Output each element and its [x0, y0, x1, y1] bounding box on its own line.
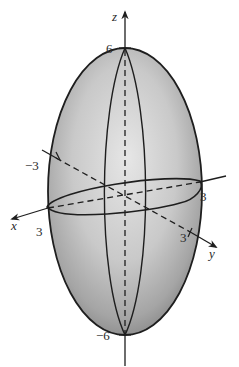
y-tick-positive-label: 3 — [180, 230, 187, 245]
x-tick-positive-label: 3 — [36, 224, 43, 239]
z-tick-negative-label: −6 — [96, 328, 110, 343]
ellipsoid-diagram: z 6 −6 −3 x 3 3 3 y — [0, 0, 239, 367]
z-axis-label: z — [111, 9, 117, 24]
x-axis-outer-right — [200, 176, 226, 182]
y-tick-negative-label: −3 — [25, 158, 39, 173]
x-axis-outer-left — [12, 208, 48, 219]
z-tick-positive-label: 6 — [106, 41, 113, 56]
x-axis-label: x — [10, 218, 17, 233]
y-axis-label: y — [207, 246, 215, 261]
equator-right-tick-label: 3 — [200, 189, 207, 204]
